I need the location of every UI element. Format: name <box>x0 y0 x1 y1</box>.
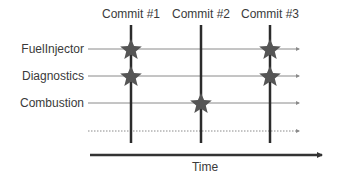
diagram-canvas <box>0 0 338 179</box>
time-axis-label: Time <box>192 160 218 174</box>
